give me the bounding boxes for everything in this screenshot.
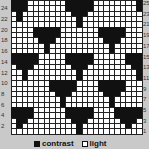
row-label-right: 19 bbox=[143, 32, 149, 38]
row-label-left: 14 bbox=[1, 59, 11, 65]
grid-cell bbox=[136, 128, 141, 133]
chart-grid bbox=[11, 0, 143, 135]
row-label-left: 10 bbox=[1, 80, 11, 86]
row-label-left: 22 bbox=[1, 16, 11, 22]
row-label-left: 20 bbox=[1, 27, 11, 33]
row-label-left: 18 bbox=[1, 37, 11, 43]
row-label-left: 2 bbox=[1, 123, 11, 129]
row-label-right: 15 bbox=[143, 54, 149, 60]
row-label-right: 5 bbox=[143, 107, 149, 113]
row-label-left: 12 bbox=[1, 70, 11, 76]
row-label-right: 7 bbox=[143, 96, 149, 102]
row-label-right: 13 bbox=[143, 64, 149, 70]
row-label-right: 11 bbox=[143, 75, 149, 81]
row-label-right: 21 bbox=[143, 21, 149, 27]
row-label-right: 25 bbox=[143, 0, 149, 6]
legend: contrast light bbox=[34, 139, 106, 148]
row-label-left: 6 bbox=[1, 102, 11, 108]
row-label-left: 8 bbox=[1, 91, 11, 97]
row-label-right: 23 bbox=[143, 11, 149, 17]
legend-contrast: contrast bbox=[34, 139, 74, 148]
legend-light: light bbox=[82, 139, 107, 148]
contrast-swatch-icon bbox=[34, 141, 40, 147]
row-label-left: 16 bbox=[1, 48, 11, 54]
row-label-right: 9 bbox=[143, 86, 149, 92]
row-label-left: 4 bbox=[1, 112, 11, 118]
row-label-left: 24 bbox=[1, 5, 11, 11]
light-swatch-icon bbox=[82, 141, 88, 147]
row-label-right: 17 bbox=[143, 43, 149, 49]
row-label-right: 1 bbox=[143, 128, 149, 134]
row-label-right: 3 bbox=[143, 118, 149, 124]
